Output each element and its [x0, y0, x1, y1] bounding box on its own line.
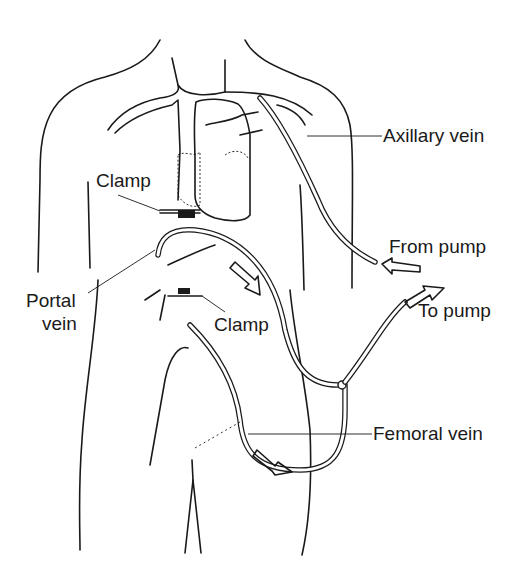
label-clamp-lower: Clamp: [214, 314, 269, 337]
label-axillary-vein: Axillary vein: [383, 125, 484, 148]
femoral-cannula: [190, 325, 372, 470]
label-portal-vein-line1: Portal: [26, 290, 76, 313]
portal-flow-arrow-icon: [230, 262, 260, 295]
label-portal-vein-line2: vein: [42, 313, 77, 336]
label-clamp-upper: Clamp: [96, 170, 151, 193]
label-to-pump: To pump: [418, 300, 491, 323]
label-femoral-vein: Femoral vein: [373, 423, 483, 446]
axillary-cannula: [260, 98, 382, 262]
y-connector: [338, 302, 405, 389]
heart: [178, 99, 262, 220]
bypass-diagram: [0, 0, 525, 582]
from-pump-arrow-icon: [382, 258, 420, 274]
portal-vein-pointer: [88, 250, 155, 293]
clamp-upper-pointer: [118, 195, 160, 211]
portal-cannula: [145, 230, 338, 385]
clamp-lower: [168, 288, 225, 312]
label-from-pump: From pump: [389, 236, 486, 259]
